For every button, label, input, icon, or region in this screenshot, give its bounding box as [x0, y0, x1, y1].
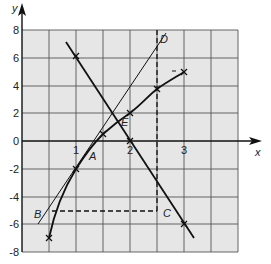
x-tick: 3 [181, 144, 187, 156]
y-tick: 8 [13, 24, 19, 36]
label-b: B [34, 208, 41, 220]
label-c: C [163, 207, 171, 219]
y-tick: 6 [13, 52, 19, 64]
x-tick: 2 [127, 144, 133, 156]
label-d: D [160, 33, 168, 45]
x-axis-label: x [254, 146, 261, 158]
y-tick: 4 [13, 80, 19, 92]
y-axis-label: y [11, 2, 19, 14]
y-tick: -8 [9, 246, 19, 258]
y-tick: 2 [13, 107, 19, 119]
y-tick: -4 [9, 191, 19, 203]
label-e: E [121, 116, 129, 128]
y-tick: 0 [13, 135, 19, 147]
coordinate-graph: 8 6 4 2 0 -2 -4 -6 -8 1 2 3 y x A B C D … [0, 0, 271, 264]
label-a: A [88, 150, 96, 162]
x-tick: 1 [73, 144, 79, 156]
y-tick-labels: 8 6 4 2 0 -2 -4 -6 -8 [9, 24, 19, 258]
y-tick: -2 [9, 163, 19, 175]
y-tick: -6 [9, 218, 19, 230]
